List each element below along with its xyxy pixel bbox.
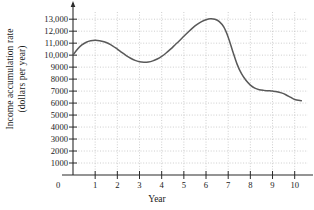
plot-area [0, 0, 314, 210]
axis-lines [62, 1, 313, 175]
gridlines [73, 12, 308, 175]
plot-svg [0, 0, 314, 210]
y-axis-arrowhead [71, 1, 76, 7]
income-accumulation-chart: Income accumulation rate (dollars per ye… [0, 0, 314, 210]
